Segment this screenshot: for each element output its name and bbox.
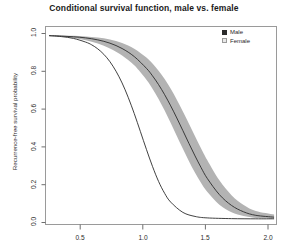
legend-item-female: Female bbox=[222, 37, 250, 46]
y-tick-label-1.0: 1.0 bbox=[30, 23, 37, 43]
legend-label-female: Female bbox=[230, 37, 250, 46]
y-axis-ticks bbox=[42, 34, 46, 223]
x-tick-label-2.0: 2.0 bbox=[256, 234, 280, 241]
axis-layer bbox=[42, 27, 277, 230]
legend-swatch-male-icon bbox=[222, 30, 227, 35]
y-tick-label-0.4: 0.4 bbox=[30, 137, 37, 157]
x-axis-ticks bbox=[80, 225, 268, 230]
x-tick-label-1.0: 1.0 bbox=[131, 234, 155, 241]
series-line-layer bbox=[49, 36, 274, 219]
confidence-band-female bbox=[49, 36, 274, 219]
legend-swatch-female-icon bbox=[222, 38, 227, 43]
legend-label-male: Male bbox=[230, 28, 243, 37]
y-tick-label-0.6: 0.6 bbox=[30, 99, 37, 119]
chart-legend: Male Female bbox=[222, 28, 250, 45]
x-tick-label-1.5: 1.5 bbox=[193, 234, 217, 241]
x-tick-label-0.5: 0.5 bbox=[68, 234, 92, 241]
confidence-band-layer bbox=[49, 36, 274, 219]
chart-title: Conditional survival function, male vs. … bbox=[0, 3, 288, 13]
y-tick-label-0.2: 0.2 bbox=[30, 175, 37, 195]
series-line-female bbox=[49, 36, 274, 218]
chart-container: Conditional survival function, male vs. … bbox=[0, 0, 288, 250]
legend-item-male: Male bbox=[222, 28, 250, 37]
y-axis-label: Recurrence-free survival probability bbox=[11, 52, 18, 192]
y-tick-label-0.0: 0.0 bbox=[30, 212, 37, 232]
series-line-male bbox=[49, 36, 274, 219]
y-tick-label-0.8: 0.8 bbox=[30, 61, 37, 81]
